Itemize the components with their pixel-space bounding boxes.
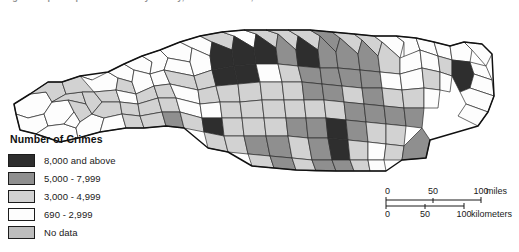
county[interactable] [286, 118, 308, 138]
county[interactable] [360, 70, 382, 88]
county[interactable] [322, 84, 344, 102]
county[interactable] [366, 122, 386, 144]
county[interactable] [304, 100, 326, 118]
county[interactable] [384, 144, 404, 160]
scalebar-miles-bar [386, 197, 481, 203]
scalebar-km-tick-0: 0 [385, 209, 390, 219]
county[interactable] [212, 66, 238, 86]
scalebar-miles-tick-0: 0 [385, 186, 390, 196]
legend-label: 8,000 and above [44, 155, 116, 166]
county[interactable] [302, 82, 324, 100]
county[interactable] [262, 100, 286, 118]
county[interactable] [324, 100, 346, 120]
county[interactable] [256, 64, 282, 82]
scalebar-svg: 0 50 100 miles 0 50 100 kilometers [385, 186, 513, 220]
county[interactable] [348, 140, 368, 160]
county[interactable] [264, 118, 288, 136]
county[interactable] [346, 120, 368, 142]
scalebar-miles-unit: miles [486, 186, 508, 196]
scalebar-km-tick-100: 100 [456, 209, 471, 219]
county[interactable] [404, 108, 424, 128]
figure-title: Figure Map of reported crimes by county,… [4, 0, 277, 2]
county[interactable] [282, 82, 304, 100]
county[interactable] [402, 88, 424, 108]
legend-item[interactable]: 690 - 2,999 [8, 205, 183, 223]
legend-swatch-690-2999 [8, 208, 35, 221]
legend-title: Number of Crimes [10, 133, 183, 145]
county[interactable] [328, 138, 350, 160]
scalebar-km-tick-50: 50 [420, 209, 430, 219]
scalebar-km-unit: kilometers [471, 209, 513, 219]
county[interactable] [284, 100, 306, 118]
county[interactable] [342, 86, 364, 104]
county[interactable] [240, 100, 264, 118]
county[interactable] [306, 118, 328, 138]
county[interactable] [384, 106, 406, 126]
legend-item[interactable]: No data [8, 223, 183, 241]
county[interactable] [200, 102, 222, 118]
county[interactable] [368, 142, 386, 160]
figure-root: Figure Map of reported crimes by county,… [0, 0, 519, 252]
legend-label: 3,000 - 4,999 [44, 191, 101, 202]
county[interactable] [422, 68, 440, 90]
county[interactable] [238, 82, 262, 102]
county[interactable] [220, 102, 242, 118]
legend-swatch-3000-4999 [8, 190, 35, 203]
county[interactable] [362, 88, 384, 106]
county[interactable] [222, 118, 244, 136]
county[interactable] [344, 102, 366, 122]
county[interactable] [242, 118, 266, 136]
county[interactable] [244, 136, 270, 156]
county[interactable] [402, 128, 430, 160]
map-legend: Number of Crimes 8,000 and above 5,000 -… [8, 133, 183, 241]
legend-item[interactable]: 8,000 and above [8, 151, 183, 169]
county[interactable] [338, 68, 362, 88]
scalebar-miles-tick-50: 50 [428, 186, 438, 196]
map-scalebar: 0 50 100 miles 0 50 100 kilometers [385, 186, 513, 220]
county[interactable] [386, 124, 406, 146]
county[interactable] [216, 84, 240, 102]
county[interactable] [380, 72, 402, 90]
county[interactable] [260, 82, 284, 100]
county[interactable] [368, 160, 386, 171]
county[interactable] [382, 88, 404, 108]
legend-item[interactable]: 3,000 - 4,999 [8, 187, 183, 205]
county[interactable] [298, 66, 322, 84]
legend-swatch-5000-7999 [8, 172, 35, 185]
legend-item[interactable]: 5,000 - 7,999 [8, 169, 183, 187]
legend-label: 690 - 2,999 [44, 209, 93, 220]
legend-label: 5,000 - 7,999 [44, 173, 101, 184]
legend-label: No data [44, 227, 78, 238]
county[interactable] [234, 64, 260, 84]
county[interactable] [424, 88, 440, 108]
county[interactable] [364, 104, 386, 124]
county[interactable] [326, 118, 348, 140]
map-county-group-coastal [374, 36, 452, 146]
county[interactable] [266, 136, 292, 158]
legend-swatch-8000-and-above [8, 154, 35, 167]
legend-swatch-no-data [8, 226, 35, 239]
